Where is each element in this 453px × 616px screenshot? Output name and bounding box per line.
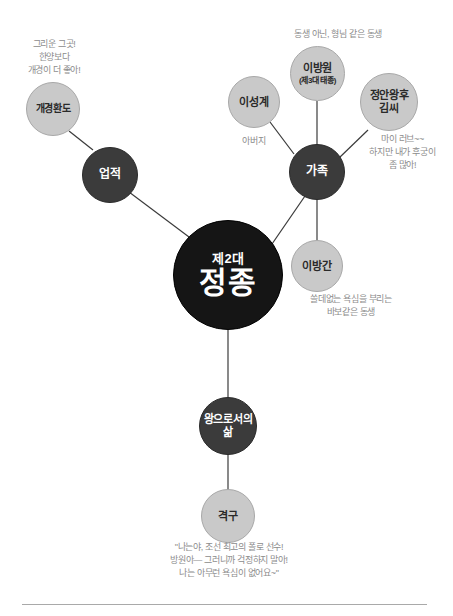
annotation-queen-note: 마이 러브~~ 하지만 내가 후궁이 좀 많아! xyxy=(352,133,453,172)
leaf-node-yi-bang-won-sublabel: (제3대 태종) xyxy=(299,76,336,85)
leaf-node-yi-bang-gan-label: 이방간 xyxy=(302,260,331,273)
leaf-node-gyeokgu[interactable]: 격구 xyxy=(201,489,255,543)
edge-center-achievements xyxy=(121,186,189,237)
leaf-node-gaegyeong-hwando[interactable]: 개경환도 xyxy=(26,82,80,136)
footer-divider xyxy=(22,604,427,605)
branch-node-achievements[interactable]: 업적 xyxy=(82,147,138,203)
branch-node-family-label: 가족 xyxy=(306,165,327,179)
annotation-gyeokgu-quote: "나는야, 조선 최고의 폴로 선수! 방원아— 그러니까 걱정하지 말아! 나… xyxy=(109,541,349,580)
branch-node-life-as-king-label: 왕으로서의 삶 xyxy=(204,413,253,438)
leaf-node-yi-bang-gan[interactable]: 이방간 xyxy=(291,240,343,292)
annotation-father-note: 아버지 xyxy=(228,135,280,148)
annotation-yi-bang-gan-note: 쓸데없는 욕심을 부리는 바보같은 동생 xyxy=(271,293,431,319)
leaf-node-yi-bang-won[interactable]: 이방원 (제3대 태종) xyxy=(290,46,345,101)
annotation-yi-bang-won-note: 동생 아닌, 형님 같은 동생 xyxy=(253,28,423,41)
leaf-node-jeongan-queen-kim-label: 정안왕후 김씨 xyxy=(370,89,409,114)
center-node-jeongjong[interactable]: 제2대 정종 xyxy=(173,220,283,330)
annotation-gaegyeong-note: 그리운 그곳! 한양보다 개경이 더 좋아! xyxy=(8,38,100,77)
edge-achievements-gaegyeong xyxy=(69,131,93,150)
leaf-node-yi-bang-won-label: 이방원 xyxy=(303,62,332,75)
mindmap-canvas: 제2대 정종 업적 가족 왕으로서의 삶 개경환도 이성계 이방원 (제3대 태… xyxy=(0,0,453,616)
center-node-ordinal: 제2대 xyxy=(212,252,243,267)
branch-node-family[interactable]: 가족 xyxy=(289,144,345,200)
leaf-node-jeongan-queen-kim[interactable]: 정안왕후 김씨 xyxy=(360,73,418,131)
leaf-node-yi-seong-gye[interactable]: 이성계 xyxy=(228,76,280,128)
leaf-node-gaegyeong-hwando-label: 개경환도 xyxy=(36,103,71,115)
edge-center-family xyxy=(272,196,305,244)
branch-node-life-as-king[interactable]: 왕으로서의 삶 xyxy=(199,397,257,455)
center-node-name: 정종 xyxy=(199,268,257,298)
leaf-node-yi-seong-gye-label: 이성계 xyxy=(239,96,268,109)
leaf-node-gyeokgu-label: 격구 xyxy=(218,510,237,523)
branch-node-achievements-label: 업적 xyxy=(99,168,120,182)
